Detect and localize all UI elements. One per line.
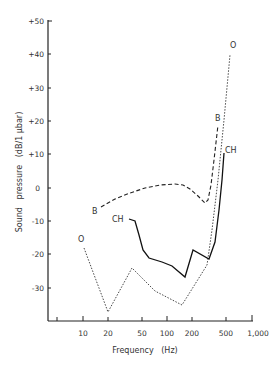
series-ch-label-end: CH <box>225 146 237 155</box>
x-tick-label: 500 <box>219 329 234 338</box>
y-tick-label: -10 <box>32 217 44 226</box>
y-tick-label: -30 <box>32 284 44 293</box>
x-tick-label: 50 <box>137 329 147 338</box>
y-tick-labels: +50 +40 +30 +20 +10 0 -10 -20 -30 <box>28 17 44 293</box>
series-o-label-end: O <box>230 41 236 50</box>
series-ch-line <box>129 153 224 277</box>
series-b-line <box>101 125 218 207</box>
series-o-line <box>84 55 230 312</box>
y-tick-label: -20 <box>32 250 44 259</box>
x-tick-label: 200 <box>185 329 200 338</box>
chart: +50 +40 +30 +20 +10 0 -10 -20 -30 10 20 … <box>0 0 278 369</box>
series-o-label: O <box>78 235 84 244</box>
series-b-label: B <box>92 207 98 216</box>
x-tick-label: 10 <box>78 329 88 338</box>
x-tick-label: 100 <box>160 329 175 338</box>
x-ticks <box>57 315 252 321</box>
x-tick-label: 1,000 <box>247 329 269 338</box>
series-b-label-end: B <box>215 114 221 123</box>
y-tick-label: +10 <box>28 150 44 159</box>
x-axis-label: Frequency (Hz) <box>112 346 177 355</box>
series-ch-label: CH <box>112 215 124 224</box>
y-tick-label: 0 <box>35 184 40 193</box>
y-tick-label: +50 <box>28 17 44 26</box>
y-axis-label: Sound pressure (dB/1 μbar) <box>15 112 24 233</box>
y-tick-label: +20 <box>28 117 44 126</box>
y-tick-label: +40 <box>28 50 44 59</box>
x-tick-labels: 10 20 50 100 200 500 1,000 <box>78 329 269 338</box>
y-tick-label: +30 <box>28 84 44 93</box>
x-tick-label: 20 <box>103 329 113 338</box>
